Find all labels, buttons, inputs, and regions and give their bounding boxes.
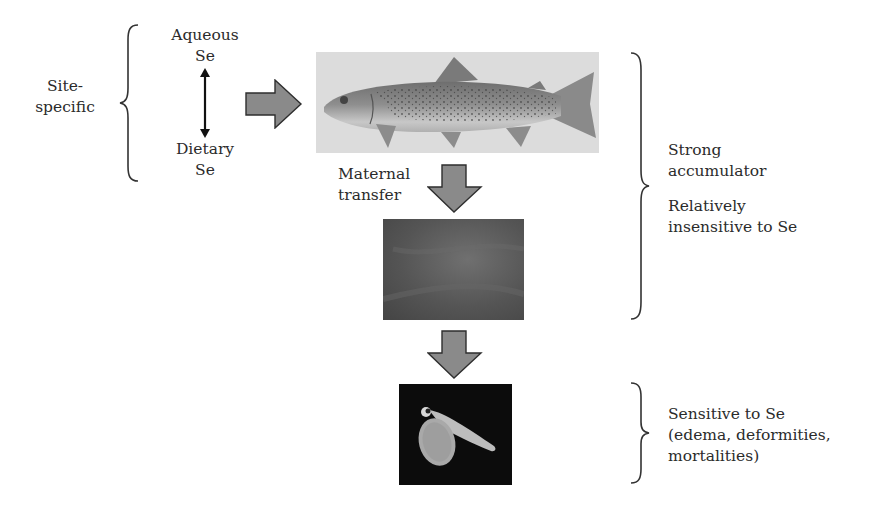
insensitive-note: Relatively insensitive to Se <box>668 196 797 238</box>
maternal-line2: transfer <box>338 185 410 206</box>
larva-illustration-icon <box>399 384 512 485</box>
strong-line: Strong <box>668 140 766 161</box>
adult-trout-image <box>316 52 599 153</box>
maternal-line1: Maternal <box>338 164 410 185</box>
maternal-transfer-label: Maternal transfer <box>338 164 410 206</box>
relatively-line: Relatively <box>668 196 797 217</box>
dietary-line1: Dietary <box>160 139 250 160</box>
sensitive-line2: (edema, deformities, <box>668 425 831 446</box>
accumulator-note: Strong accumulator <box>668 140 766 182</box>
larval-fish-image <box>399 384 512 485</box>
right-curly-brace-upper <box>628 50 652 322</box>
site-specific-label: Site- specific <box>20 76 110 118</box>
down-block-arrow-icon <box>427 164 483 214</box>
site-specific-line2: specific <box>20 97 110 118</box>
trout-illustration-icon <box>316 52 599 153</box>
left-curly-brace <box>116 22 142 184</box>
right-curly-brace-lower <box>628 380 652 486</box>
site-specific-line1: Site- <box>20 76 110 97</box>
insensitive-line: insensitive to Se <box>668 217 797 238</box>
sensitive-note: Sensitive to Se (edema, deformities, mor… <box>668 404 831 467</box>
right-block-arrow-icon <box>245 79 303 129</box>
aqueous-line2: Se <box>160 46 250 67</box>
aqueous-line1: Aqueous <box>160 25 250 46</box>
accumulator-line: accumulator <box>668 161 766 182</box>
dietary-se-label: Dietary Se <box>160 139 250 181</box>
sensitive-line3: mortalities) <box>668 446 831 467</box>
down-block-arrow-icon-2 <box>427 330 483 380</box>
double-headed-arrow-icon <box>198 68 212 138</box>
dietary-line2: Se <box>160 160 250 181</box>
fish-eggs-image <box>383 219 524 320</box>
aqueous-se-label: Aqueous Se <box>160 25 250 67</box>
sensitive-line1: Sensitive to Se <box>668 404 831 425</box>
eggs-texture-icon <box>383 219 524 320</box>
